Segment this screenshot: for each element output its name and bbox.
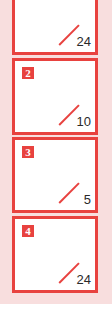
card-count: 10: [77, 114, 91, 129]
card-list-panel: 1 24 2 10 3 5 4 24: [0, 0, 112, 304]
card-count: 24: [77, 34, 91, 49]
card-count: 24: [77, 272, 91, 287]
diagonal-line-icon: [58, 182, 79, 203]
card-1[interactable]: 1 24: [12, 0, 98, 55]
card-count: 5: [84, 192, 91, 207]
card-badge: 2: [22, 67, 34, 79]
card-badge: 3: [22, 146, 34, 158]
card-3[interactable]: 3 5: [12, 137, 98, 213]
card-2[interactable]: 2 10: [12, 58, 98, 135]
card-badge: 4: [22, 225, 34, 237]
card-4[interactable]: 4 24: [12, 216, 98, 293]
